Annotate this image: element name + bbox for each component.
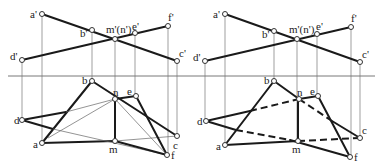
label-e: e: [127, 85, 132, 97]
label-b-prime: b': [80, 27, 88, 39]
right-edge-ef: [318, 96, 350, 157]
label-n: n: [113, 86, 119, 98]
left-edge-dn-visible: [22, 112, 66, 120]
label-f-prime: f': [351, 12, 357, 24]
label-m: m: [292, 143, 301, 155]
left-edge-bc: [92, 81, 177, 136]
right-edge-nc-hidden: [299, 99, 332, 121]
label-a: a: [33, 138, 38, 150]
left-panel: a' b' m'(n') e' f' c' d' b n e d a m c f: [10, 8, 186, 161]
label-n: n: [297, 86, 303, 98]
label-d-prime: d': [193, 51, 201, 63]
label-b: b: [82, 74, 88, 86]
right-edge-ab: [225, 81, 274, 145]
label-a-prime: a': [30, 8, 37, 20]
left-projection-lines: [22, 14, 177, 155]
label-f: f: [354, 151, 358, 163]
label-f-prime: f': [168, 11, 174, 23]
left-line-a-c-front: [42, 14, 177, 61]
left-edge-am: [42, 141, 115, 143]
right-edge-df-hidden: [236, 130, 290, 140]
label-m-n-prime: m'(n'): [106, 23, 132, 36]
label-e: e: [310, 85, 315, 97]
label-c-prime: c': [362, 48, 369, 60]
label-a-prime: a': [213, 8, 220, 20]
label-f: f: [171, 149, 175, 161]
left-aux-line-an: [48, 99, 115, 138]
label-d: d: [197, 115, 203, 127]
label-d-prime: d': [10, 50, 18, 62]
label-a: a: [216, 140, 221, 152]
label-m-n-prime: m'(n'): [289, 23, 315, 36]
right-edge-dn-hidden: [250, 99, 299, 111]
projection-diagram: a' b' m'(n') e' f' c' d' b n e d a m c f: [0, 0, 375, 164]
right-edge-df-visible: [206, 121, 236, 130]
label-c-prime: c': [179, 47, 186, 59]
label-b: b: [264, 74, 270, 86]
right-edge-bn: [274, 81, 299, 99]
label-e-prime: e': [316, 20, 323, 32]
label-c: c: [362, 124, 367, 136]
right-line-a-c-front: [225, 14, 360, 62]
label-e-prime: e': [132, 20, 139, 32]
right-edge-am: [225, 141, 298, 145]
label-m: m: [109, 143, 118, 155]
right-panel: a' b' m'(n') e' f' c' d' b n e d a m c f: [193, 8, 369, 163]
left-edge-mf: [115, 141, 167, 155]
left-line-d-f-front: [22, 26, 168, 60]
left-edge-df-visible: [22, 120, 53, 129]
label-d: d: [14, 114, 20, 126]
label-b-prime: b': [262, 28, 270, 40]
